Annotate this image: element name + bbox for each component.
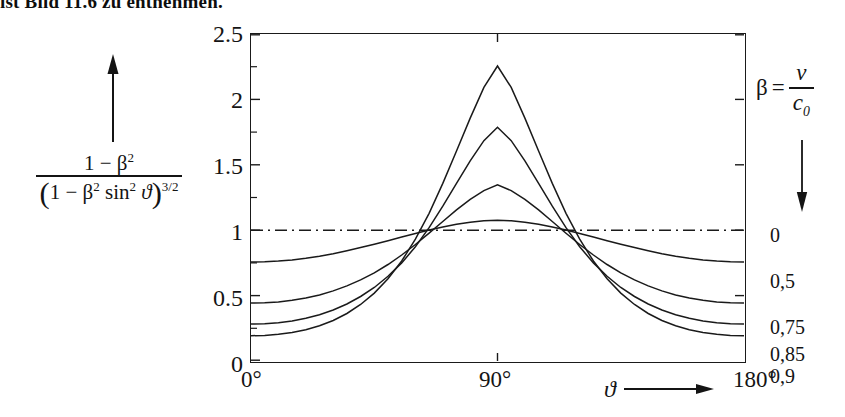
y-tick-label: 1 (231, 220, 243, 244)
y-axis-formula: 1 − β2 (1 − β2 sin2 ϑ)3/2 (14, 152, 204, 210)
curve-beta-0-85 (251, 127, 744, 324)
legend-arrow (792, 140, 812, 214)
legend-beta-symbol: β (756, 75, 768, 101)
legend: β = v c0 0 0,5 0,75 0,85 0,9 (756, 60, 845, 380)
legend-title: β = v c0 (756, 60, 814, 116)
legend-fraction-numerator: v (789, 60, 814, 87)
y-tick-label: 2.5 (213, 22, 243, 46)
curve-beta-0-75 (251, 185, 744, 303)
arrow-right-icon (624, 382, 716, 396)
curve-beta-0-5 (251, 220, 744, 262)
x-axis-title: ϑ (604, 372, 716, 406)
formula-denominator: (1 − β2 sin2 ϑ)3/2 (36, 177, 183, 210)
y-right-ticks (735, 35, 744, 296)
plot-canvas (251, 34, 744, 361)
plot-area (250, 33, 746, 363)
legend-value-beta-0-5: 0,5 (770, 271, 795, 291)
y-axis-tick-labels: 2.5 2 1.5 1 0.5 0 (180, 0, 243, 417)
figure-page: ist Bild 11.6 zu entnehmen. 1 − β2 (1 − … (0, 0, 845, 417)
legend-value-beta-0-9: 0,9 (770, 366, 795, 386)
legend-value-beta-0-85: 0,85 (770, 344, 805, 364)
legend-value-beta-0-75: 0,75 (770, 317, 805, 337)
formula-numerator: 1 − β2 (36, 152, 183, 175)
legend-value-beta-0: 0 (770, 225, 780, 245)
y-tick-label: 0.5 (213, 286, 243, 310)
legend-fraction: v c0 (789, 60, 814, 116)
formula-fraction: 1 − β2 (1 − β2 sin2 ϑ)3/2 (36, 152, 183, 210)
legend-equals: = (772, 75, 785, 101)
y-minor-ticks (251, 67, 257, 329)
x-tick-label: 0° (241, 368, 262, 391)
x-axis-tick-labels: 0° 90° 180° (210, 368, 630, 402)
x-tick-label: 90° (479, 368, 511, 391)
y-tick-label: 1.5 (213, 154, 243, 178)
curve-beta-0-9 (251, 66, 744, 336)
legend-fraction-denominator: c0 (789, 89, 814, 116)
caption-text-clipped: ist Bild 11.6 zu entnehmen. (0, 0, 320, 13)
arrow-up-icon (100, 52, 126, 142)
x-axis-symbol: ϑ (604, 376, 616, 403)
y-axis-arrow (100, 52, 126, 142)
y-tick-label: 2 (231, 88, 243, 112)
arrow-down-icon (792, 140, 812, 214)
